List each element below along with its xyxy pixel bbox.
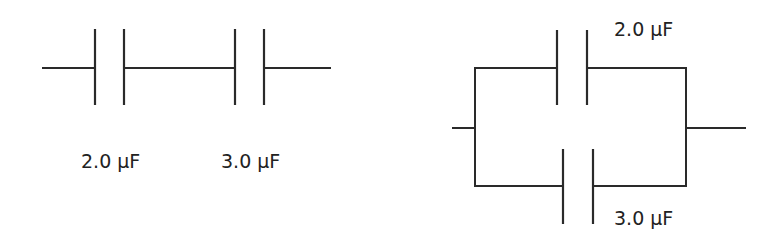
series-capacitor-1	[95, 29, 124, 105]
series-circuit: 2.0 μF 3.0 μF	[42, 29, 331, 172]
series-capacitor-2-label: 3.0 μF	[221, 150, 280, 172]
parallel-capacitor-top	[557, 30, 587, 105]
series-capacitor-1-label: 2.0 μF	[81, 150, 140, 172]
capacitor-diagram: 2.0 μF 3.0 μF 2.0 μF 3.0 μF	[0, 0, 775, 233]
parallel-capacitor-bottom-label: 3.0 μF	[614, 207, 673, 229]
series-capacitor-2	[235, 29, 264, 105]
parallel-circuit: 2.0 μF 3.0 μF	[452, 18, 746, 229]
diagram-canvas: 2.0 μF 3.0 μF 2.0 μF 3.0 μF	[0, 0, 775, 233]
parallel-capacitor-bottom	[563, 149, 593, 224]
parallel-capacitor-top-label: 2.0 μF	[614, 18, 673, 40]
